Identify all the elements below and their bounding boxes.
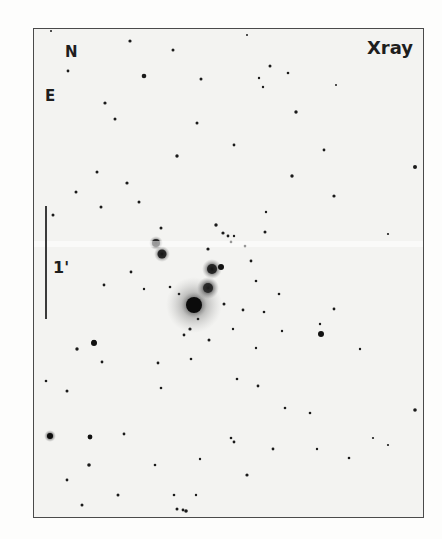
north-label: N <box>65 43 78 61</box>
scale-bar-label: 1' <box>53 258 69 277</box>
scale-bar <box>45 206 47 319</box>
star-field <box>34 29 423 517</box>
east-label: E <box>45 87 55 105</box>
scan-artifact-band <box>34 241 423 247</box>
xray-image-panel: N E Xray 1' <box>33 28 424 518</box>
panel-title: Xray <box>367 37 413 58</box>
